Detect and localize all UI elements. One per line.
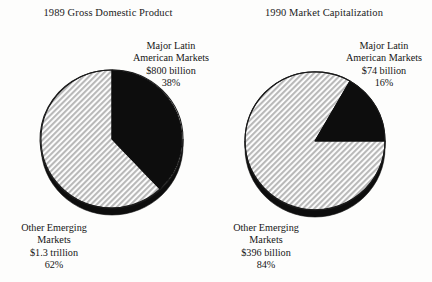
label-value: $396 billion bbox=[214, 247, 318, 259]
label-major-latin-marketcap: Major Latin American Markets $74 billion… bbox=[340, 40, 428, 90]
label-value: $74 billion bbox=[340, 65, 428, 77]
label-percent: 62% bbox=[2, 259, 106, 271]
label-line-2: American Markets bbox=[340, 52, 428, 64]
chart-panel-marketcap: 1990 Market Capitalization Major Latin A… bbox=[216, 0, 432, 282]
label-line-1: Other Emerging bbox=[2, 222, 106, 234]
label-value: $1.3 trillion bbox=[2, 247, 106, 259]
label-line-1: Other Emerging bbox=[214, 222, 318, 234]
label-line-2: Markets bbox=[2, 234, 106, 246]
chart-panel-gdp: 1989 Gross Domestic Product Major Latin … bbox=[0, 0, 216, 282]
label-line-1: Major Latin bbox=[340, 40, 428, 52]
label-line-1: Major Latin bbox=[128, 40, 214, 52]
figure-page: 1989 Gross Domestic Product Major Latin … bbox=[0, 0, 432, 282]
label-percent: 84% bbox=[214, 259, 318, 271]
label-percent: 16% bbox=[340, 77, 428, 89]
label-value: $800 billion bbox=[128, 65, 214, 77]
label-line-2: Markets bbox=[214, 234, 318, 246]
label-other-emerging-marketcap: Other Emerging Markets $396 billion 84% bbox=[214, 222, 318, 272]
label-line-2: American Markets bbox=[128, 52, 214, 64]
label-percent: 38% bbox=[128, 77, 214, 89]
label-other-emerging-gdp: Other Emerging Markets $1.3 trillion 62% bbox=[2, 222, 106, 272]
label-major-latin-gdp: Major Latin American Markets $800 billio… bbox=[128, 40, 214, 90]
